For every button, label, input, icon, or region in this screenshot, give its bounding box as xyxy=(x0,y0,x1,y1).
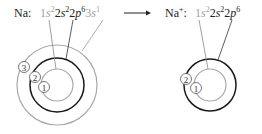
na-label: Na: xyxy=(14,6,31,20)
shell-3-ring xyxy=(17,45,97,125)
na-ion: 2 1 xyxy=(181,20,237,111)
leader-3s xyxy=(82,20,103,51)
shell-2-ring xyxy=(30,58,84,112)
shell-badge-3: 3 xyxy=(19,62,30,73)
svg-text:1: 1 xyxy=(42,83,47,93)
na-atom: 3 2 1 xyxy=(17,20,103,125)
na-ion-configuration: Na+: 1s22s22p6 xyxy=(165,5,240,20)
ion-shell-badge-2: 2 xyxy=(181,74,192,85)
reaction-arrow xyxy=(124,11,151,16)
svg-text:2: 2 xyxy=(33,73,38,83)
shell-badge-1: 1 xyxy=(39,82,50,93)
ion-shell-badge-1: 1 xyxy=(191,83,202,94)
na-ion-config-text: 1s22s22p6 xyxy=(195,5,240,20)
leader-2s2p xyxy=(66,20,73,59)
na-ion-label: Na+: xyxy=(165,5,187,20)
ionization-diagram: 3 2 1 2 1 Na: 1s22s22p63s1 xyxy=(0,0,262,134)
svg-text:3: 3 xyxy=(22,63,27,73)
svg-text:1: 1 xyxy=(194,84,199,94)
na-configuration: Na: 1s22s22p63s1 xyxy=(14,5,100,20)
shell-badge-2: 2 xyxy=(30,72,41,83)
na-config-text: 1s22s22p63s1 xyxy=(40,5,100,20)
svg-text:2: 2 xyxy=(184,75,189,85)
ion-leader-2s2p xyxy=(218,20,232,60)
